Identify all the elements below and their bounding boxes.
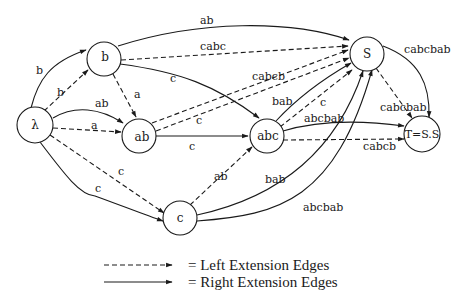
label-S-T-left: cabcbab (380, 101, 427, 114)
node-b-label: b (101, 50, 109, 64)
node-ab: ab (122, 119, 156, 153)
edge-c-S-right-2 (197, 70, 372, 221)
label-c-S-right-2: abcbab (303, 201, 343, 214)
label-lambda-b-right: b (36, 64, 43, 77)
edge-lambda-ab-right (53, 110, 123, 123)
node-abc-label: abc (257, 129, 279, 143)
node-b: b (87, 42, 121, 76)
node-T-label: T=S.S (405, 128, 440, 141)
edge-b-ab-left (113, 74, 136, 117)
node-S: S (350, 37, 384, 71)
label-b-S-right: ab (200, 14, 214, 27)
label-b-S-left: cabc (200, 40, 226, 53)
label-c-abc-left: ab (214, 170, 228, 183)
label-ab-S-left-1: cabcb (252, 70, 285, 83)
label-ab-abc-right: c (189, 140, 195, 153)
label-lambda-b-left: b (57, 86, 64, 99)
node-abc: abc (250, 119, 284, 153)
label-b-abc-right: c (170, 72, 176, 85)
label-lambda-ab-right: ab (95, 97, 109, 110)
edge-b-S-right (118, 26, 349, 46)
node-lambda-label: λ (31, 118, 39, 132)
label-abc-T-left: cabcb (363, 140, 396, 153)
label-abc-S-right: bab (272, 95, 293, 108)
legend-right-label: = Right Extension Edges (188, 274, 338, 290)
label-c-S-right-1: bab (265, 173, 286, 186)
label-abc-T-right: abcbab (304, 112, 344, 125)
extension-graph: b b ab a c c ab cabc c a c cabcb c bab c… (0, 0, 467, 307)
label-lambda-c-left: c (118, 165, 124, 178)
label-lambda-c-right: c (95, 182, 101, 195)
node-T: T=S.S (404, 116, 440, 152)
node-lambda: λ (17, 107, 53, 143)
node-c: c (163, 201, 197, 235)
label-lambda-ab-left: a (91, 119, 98, 132)
node-ab-label: ab (135, 130, 150, 144)
edge-lambda-ab-left (53, 128, 121, 132)
label-b-ab-left: a (134, 88, 141, 101)
node-c-label: c (177, 211, 184, 225)
label-S-T-right: cabcbab (404, 43, 451, 56)
edge-lambda-b-left (44, 70, 88, 111)
node-S-label: S (363, 47, 371, 61)
legend-left-label: = Left Extension Edges (188, 257, 330, 273)
label-abc-S-left: c (320, 96, 326, 109)
edge-b-S-left (121, 46, 348, 60)
label-ab-S-left-2: c (196, 114, 202, 127)
edge-lambda-c-right (40, 142, 163, 221)
edge-lambda-b-right (31, 50, 86, 108)
legend: = Left Extension Edges = Right Extension… (104, 257, 338, 290)
